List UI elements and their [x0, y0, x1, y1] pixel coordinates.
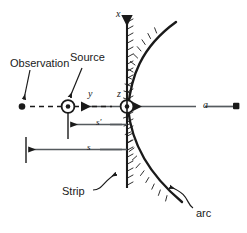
arc-curve [128, 22, 182, 202]
s-dimension [26, 137, 127, 163]
source-leader-line [70, 68, 82, 97]
observation-point-marker [19, 103, 26, 110]
arc-label: arc [196, 208, 211, 219]
source-point-marker [62, 100, 75, 113]
strip-leader-line [93, 174, 116, 190]
diagram-vector-layer [0, 0, 247, 233]
callout-leaders [24, 68, 193, 208]
origin-point-marker [121, 100, 134, 113]
radius-label-a: a [203, 100, 208, 110]
s-label: s [87, 143, 91, 152]
s-prime-label: s' [96, 118, 101, 127]
source-label: Source [70, 52, 105, 63]
arc-leader-line [170, 187, 193, 208]
z-axis-label: z [117, 89, 121, 99]
diagram-canvas: Observation Source Strip arc x y z a s' … [0, 0, 247, 233]
observation-label: Observation [10, 58, 69, 69]
radius-dimension-a [133, 103, 239, 109]
observation-leader-line [24, 70, 30, 99]
y-axis-label: y [88, 89, 92, 99]
radius-endpoint-marker [233, 103, 239, 109]
strip-label: Strip [62, 186, 85, 197]
x-axis-label: x [116, 9, 120, 19]
